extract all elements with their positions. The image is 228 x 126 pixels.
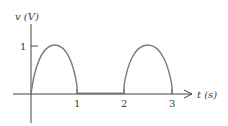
x-tick-label-1: 1 bbox=[74, 98, 80, 109]
waveform-arch-2 bbox=[124, 45, 172, 94]
y-axis-label: v (V) bbox=[15, 11, 39, 22]
waveform-arch-1 bbox=[31, 45, 77, 94]
x-tick-label-3: 3 bbox=[169, 98, 175, 109]
x-axis-label: t (s) bbox=[197, 89, 217, 100]
y-tick-label-1: 1 bbox=[20, 41, 26, 52]
x-tick-label-2: 2 bbox=[121, 98, 127, 109]
waveform-plot: v (V) 1 1 2 3 t (s) bbox=[0, 0, 228, 126]
